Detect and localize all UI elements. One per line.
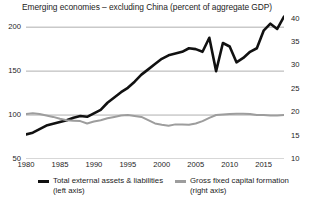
- left-axis-tick-label: 150: [1, 66, 21, 75]
- series-line-black: [26, 17, 284, 135]
- legend-label: Total external assets & liabilities: [53, 176, 163, 186]
- right-axis-tick-label: 25: [291, 84, 313, 93]
- chart-figure: Emerging economies – excluding China (pe…: [0, 0, 314, 208]
- x-axis-tick-label: 1980: [11, 160, 41, 169]
- right-axis-tick-label: 40: [291, 14, 313, 23]
- chart-canvas: [26, 14, 284, 159]
- x-axis-tick-label: 2005: [181, 160, 211, 169]
- chart-legend: Total external assets & liabilities (lef…: [0, 176, 314, 206]
- legend-sublabel: (right axis): [190, 186, 289, 196]
- x-axis-tick-label: 1990: [79, 160, 109, 169]
- legend-item-total-external-assets: Total external assets & liabilities (lef…: [38, 176, 163, 196]
- x-axis-ticks: 19801985199019952000200520102015: [0, 160, 314, 172]
- series-lines: [26, 17, 284, 135]
- right-axis-tick-label: 20: [291, 107, 313, 116]
- legend-swatch-icon: [175, 180, 186, 183]
- x-axis-tick-label: 1995: [113, 160, 143, 169]
- x-axis-tick-label: 1985: [45, 160, 75, 169]
- legend-label: Gross fixed capital formation: [190, 176, 289, 186]
- x-axis-tick-label: 2000: [147, 160, 177, 169]
- left-axis-tick-label: 100: [1, 110, 21, 119]
- right-axis-tick-label: 15: [291, 131, 313, 140]
- x-axis-tick-label: 2010: [215, 160, 245, 169]
- right-axis-tick-label: 35: [291, 37, 313, 46]
- x-axis-tick-label: 2015: [249, 160, 279, 169]
- legend-item-gross-fixed-capital-formation: Gross fixed capital formation (right axi…: [175, 176, 289, 196]
- legend-sublabel: (left axis): [53, 186, 163, 196]
- right-axis-tick-label: 30: [291, 60, 313, 69]
- plot-area: [26, 14, 284, 159]
- gridlines: [26, 27, 284, 159]
- legend-swatch-icon: [38, 180, 49, 183]
- left-axis-tick-label: 200: [1, 22, 21, 31]
- page-title: Emerging economies – excluding China (pe…: [22, 2, 272, 13]
